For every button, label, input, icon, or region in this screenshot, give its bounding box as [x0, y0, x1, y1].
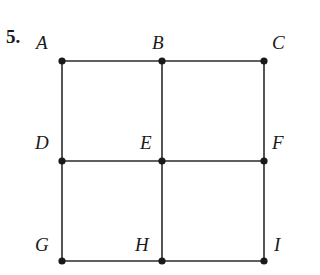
label-i: I [274, 234, 280, 256]
label-c: C [272, 32, 285, 54]
point-b [158, 57, 165, 64]
point-e [158, 157, 165, 164]
label-e: E [140, 132, 152, 154]
point-g [58, 257, 65, 264]
point-i [260, 257, 267, 264]
point-c [260, 57, 267, 64]
label-d: D [35, 132, 49, 154]
label-a: A [36, 32, 48, 54]
point-f [260, 157, 267, 164]
label-b: B [152, 32, 164, 54]
label-h: H [135, 234, 149, 256]
point-h [158, 257, 165, 264]
label-g: G [35, 234, 49, 256]
point-d [58, 157, 65, 164]
label-f: F [272, 132, 284, 154]
point-a [58, 57, 65, 64]
